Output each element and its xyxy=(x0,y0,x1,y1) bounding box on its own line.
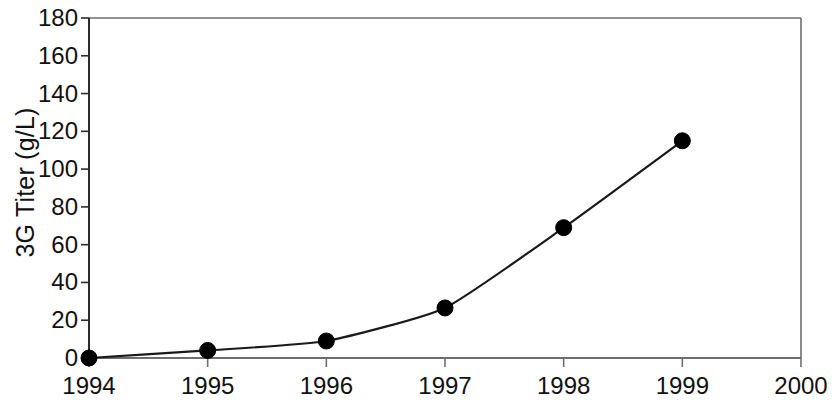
data-series-group xyxy=(89,141,682,358)
data-point-marker xyxy=(318,333,334,349)
data-point-marker xyxy=(81,350,97,366)
data-markers-group xyxy=(81,133,690,366)
data-point-marker xyxy=(437,300,453,316)
data-line-3g-titer xyxy=(89,141,682,358)
data-point-marker xyxy=(674,133,690,149)
chart-figure: 3G Titer (g/L) 020406080100120140160180 … xyxy=(0,0,832,406)
data-point-marker xyxy=(200,342,216,358)
data-point-marker xyxy=(556,220,572,236)
plot-area xyxy=(0,0,832,406)
